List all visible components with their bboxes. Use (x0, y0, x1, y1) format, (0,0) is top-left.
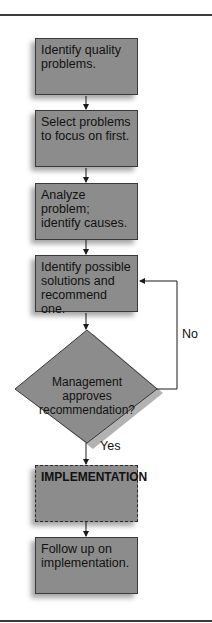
decision-label: Management approves recommendation? (37, 375, 137, 417)
step-follow-up: Follow up on implementation. (35, 537, 138, 594)
step-analyze-problem: Analyze problem; identify causes. (35, 183, 138, 240)
step-identify-solutions: Identify possible solutions and recommen… (35, 255, 138, 312)
step-implementation: IMPLEMENTATION (35, 465, 138, 522)
yes-branch-label: Yes (100, 439, 120, 453)
no-branch-label: No (182, 327, 198, 341)
step-select-problems: Select problems to focus on first. (35, 110, 138, 167)
step-identify-problems: Identify quality problems. (35, 38, 138, 95)
